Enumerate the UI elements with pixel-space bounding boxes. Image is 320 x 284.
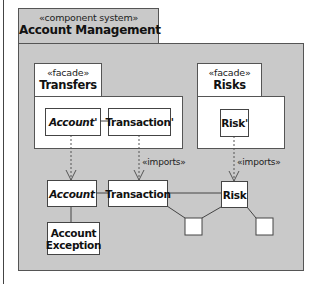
account-exception-component[interactable]: Account Exception [47,222,100,255]
account-prime-component[interactable]: Account' [45,108,101,136]
risk-component[interactable]: Risk [221,181,248,208]
account-component[interactable]: Account [47,180,97,207]
risk-prime-component[interactable]: Risk' [220,109,249,137]
transaction-prime-component[interactable]: Transaction' [108,108,171,136]
transaction-component[interactable]: Transaction [108,180,168,207]
imports-label-risk: «imports» [237,157,281,167]
imports-label-transaction: «imports» [142,157,186,167]
